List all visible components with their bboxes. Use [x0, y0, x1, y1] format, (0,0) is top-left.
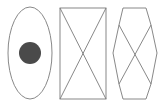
ellipse-shape — [8, 7, 52, 99]
filled-dot — [19, 42, 41, 64]
hexagon-shape — [113, 8, 157, 99]
diagram-canvas — [0, 0, 164, 104]
rectangle-shape — [60, 8, 106, 99]
hexagon-outline — [113, 8, 157, 99]
